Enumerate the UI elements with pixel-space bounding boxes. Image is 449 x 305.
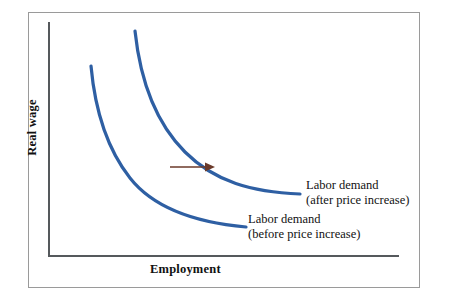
figure-container: Real wage Employment Labor demand (after… (0, 0, 449, 305)
chart-curves (0, 0, 449, 305)
annotation-labor-demand-after: Labor demand (after price increase) (306, 178, 409, 208)
annotation-after-line2: (after price increase) (306, 193, 409, 208)
annotation-before-line1: Labor demand (248, 212, 321, 226)
annotation-labor-demand-before: Labor demand (before price increase) (248, 212, 360, 242)
annotation-after-line1: Labor demand (306, 178, 379, 192)
annotation-before-line2: (before price increase) (248, 227, 360, 242)
curve-labor-demand-after (135, 31, 300, 194)
curve-labor-demand-before (91, 66, 246, 227)
